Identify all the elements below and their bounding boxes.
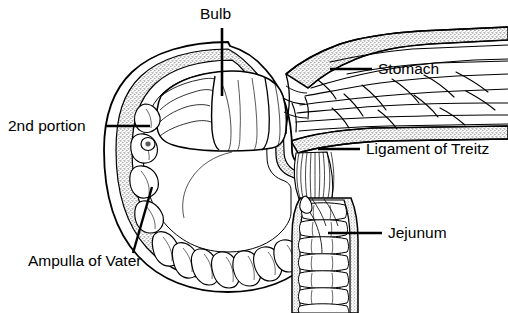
- label-ligament-of-treitz: Ligament of Treitz: [366, 141, 489, 157]
- anatomy-diagram-canvas: Bulb Stomach 2nd portion Ligament of Tre…: [0, 0, 508, 313]
- jejunal-loop: [292, 196, 358, 313]
- label-stomach: Stomach: [378, 61, 439, 77]
- label-ampulla-of-vater: Ampulla of Vater: [28, 253, 141, 269]
- label-jejunum: Jejunum: [388, 225, 447, 241]
- label-bulb: Bulb: [200, 6, 231, 22]
- label-second-portion: 2nd portion: [8, 118, 86, 134]
- stomach-antrum: [286, 27, 508, 153]
- duodenal-papilla: [141, 138, 155, 151]
- treitz-ligament: [294, 152, 333, 199]
